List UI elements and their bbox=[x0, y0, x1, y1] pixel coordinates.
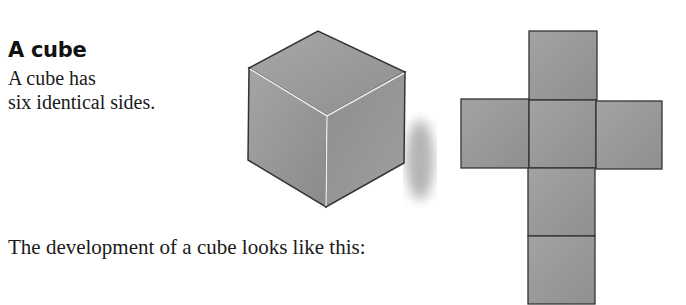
net-face-center bbox=[529, 100, 596, 168]
net-face-left bbox=[461, 99, 529, 168]
figures bbox=[0, 0, 686, 305]
net-face-top bbox=[529, 31, 597, 100]
net-face-right bbox=[596, 101, 662, 169]
net-face-bottom bbox=[528, 236, 595, 304]
cube-net bbox=[461, 31, 662, 304]
cube-illustration bbox=[248, 31, 434, 207]
net-face-lower bbox=[528, 168, 595, 236]
